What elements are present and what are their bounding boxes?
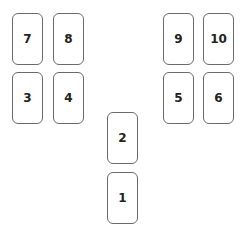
card-label: 7 bbox=[23, 32, 31, 46]
card-label: 4 bbox=[64, 91, 72, 105]
card-label: 3 bbox=[23, 91, 31, 105]
card-8: 8 bbox=[53, 13, 84, 65]
card-5: 5 bbox=[163, 72, 194, 124]
card-3: 3 bbox=[12, 72, 43, 124]
card-4: 4 bbox=[53, 72, 84, 124]
card-label: 8 bbox=[64, 32, 72, 46]
card-label: 1 bbox=[118, 191, 126, 205]
card-7: 7 bbox=[12, 13, 43, 65]
card-6: 6 bbox=[203, 72, 234, 124]
card-10: 10 bbox=[203, 13, 234, 65]
card-2: 2 bbox=[107, 112, 138, 164]
card-label: 9 bbox=[174, 32, 182, 46]
card-label: 6 bbox=[214, 91, 222, 105]
card-label: 10 bbox=[210, 32, 227, 46]
card-label: 5 bbox=[174, 91, 182, 105]
card-1: 1 bbox=[107, 172, 138, 224]
card-label: 2 bbox=[118, 131, 126, 145]
card-9: 9 bbox=[163, 13, 194, 65]
